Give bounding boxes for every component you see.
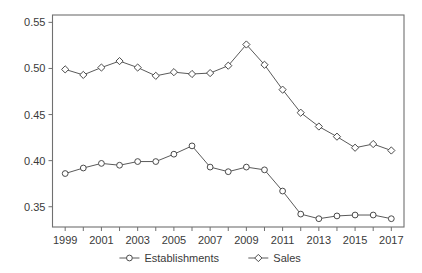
legend-marker-diamond [255,254,262,261]
data-point-establishments-2007 [207,164,213,170]
y-tick-label: 0.50 [24,62,45,74]
y-tick-label: 0.35 [24,201,45,213]
data-point-sales-2016 [370,140,377,147]
data-point-establishments-2011 [280,188,286,194]
legend-item-establishments[interactable]: Establishments [119,252,219,264]
data-point-establishments-2014 [334,213,340,219]
data-point-sales-1999 [62,66,69,73]
x-tick-label: 2015 [343,234,367,246]
plot-frame [53,15,405,227]
data-point-sales-2003 [134,64,141,71]
data-point-sales-2002 [116,57,123,64]
data-point-establishments-2006 [189,143,195,149]
data-point-establishments-2009 [243,164,249,170]
data-point-establishments-2008 [225,169,231,175]
x-tick-label: 2017 [379,234,403,246]
x-tick-label: 2009 [234,234,258,246]
data-point-sales-2007 [207,69,214,76]
data-point-sales-2005 [170,69,177,76]
data-point-sales-2000 [80,71,87,78]
data-point-sales-2015 [351,144,358,151]
data-point-establishments-2004 [153,159,159,165]
data-point-establishments-2002 [117,162,123,168]
data-point-sales-2017 [388,147,395,154]
line-chart: 0.350.400.450.500.5519992001200320052007… [0,0,422,273]
data-point-establishments-2012 [298,211,304,217]
y-tick-label: 0.40 [24,155,45,167]
legend-label: Establishments [144,252,219,264]
legend-label: Sales [273,252,301,264]
data-point-establishments-2003 [135,159,141,165]
data-point-establishments-2001 [99,161,105,167]
legend-marker-circle [127,255,133,261]
data-point-sales-2004 [152,72,159,79]
data-point-sales-2001 [98,64,105,71]
series-establishments [62,143,394,222]
x-tick-label: 2003 [125,234,149,246]
series-line-establishments [65,146,391,219]
data-point-establishments-2015 [352,212,358,218]
x-tick-label: 2013 [307,234,331,246]
data-point-establishments-1999 [62,171,68,177]
legend-item-sales[interactable]: Sales [248,252,301,264]
x-tick-label: 2005 [162,234,186,246]
chart-container: 0.350.400.450.500.5519992001200320052007… [0,0,422,273]
data-point-establishments-2017 [388,216,394,222]
data-point-sales-2006 [188,70,195,77]
x-tick-label: 2011 [271,234,295,246]
x-tick-label: 2007 [198,234,222,246]
y-tick-label: 0.45 [24,109,45,121]
data-point-establishments-2000 [80,165,86,171]
data-point-establishments-2010 [262,167,268,173]
series-line-sales [65,45,391,151]
x-tick-label: 1999 [53,234,77,246]
data-point-establishments-2013 [316,216,322,222]
y-tick-label: 0.55 [24,16,45,28]
data-point-establishments-2005 [171,151,177,157]
data-point-sales-2014 [333,133,340,140]
x-tick-label: 2001 [89,234,113,246]
data-point-establishments-2016 [370,212,376,218]
series-sales [62,41,395,154]
